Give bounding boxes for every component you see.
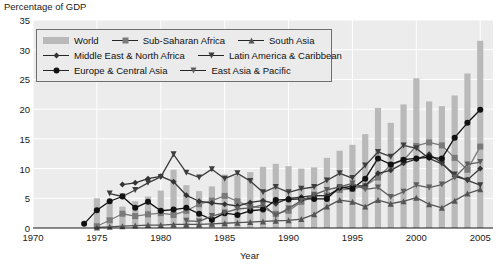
data-point-marker [145, 199, 151, 205]
data-point-marker [477, 144, 483, 150]
data-point-marker [119, 211, 125, 217]
legend-label: South Asia [269, 35, 314, 46]
data-point-marker [132, 205, 138, 211]
legend-item-latin-america-caribbean: Latin America & Caribbean [198, 50, 342, 61]
data-point-marker [54, 68, 60, 74]
bar-world [375, 108, 381, 228]
data-point-marker [122, 38, 128, 44]
data-point-marker [452, 155, 458, 161]
data-point-marker [171, 212, 177, 218]
data-point-marker [273, 197, 279, 203]
x-tick-label: 1975 [86, 232, 107, 243]
y-tick-label: 5 [6, 193, 30, 204]
legend-marker-triangle-up-icon [247, 36, 256, 45]
y-tick-label: 10 [6, 163, 30, 174]
chart-legend: WorldSub-Saharan AfricaSouth AsiaMiddle … [36, 29, 332, 82]
data-point-marker [107, 198, 113, 204]
legend-line-sample [43, 66, 69, 75]
legend-row: Middle East & North AfricaLatin America … [43, 48, 325, 63]
data-point-marker [388, 161, 394, 167]
data-point-marker [222, 193, 228, 199]
legend-label: Europe & Central Asia [74, 65, 167, 76]
y-axis-ticks: 05101520253035 [0, 0, 30, 268]
data-point-marker [107, 217, 113, 223]
data-point-marker [171, 207, 177, 213]
legend-marker-diamond-icon [52, 51, 61, 60]
data-point-marker [464, 120, 470, 126]
bar-world [413, 78, 419, 228]
data-point-marker [158, 208, 164, 214]
legend-item-south-asia: South Asia [238, 35, 314, 46]
legend-row: WorldSub-Saharan AfricaSouth Asia [43, 33, 325, 48]
x-tick-label: 1995 [342, 232, 363, 243]
legend-line-sample [180, 66, 206, 75]
legend-label: Sub-Saharan Africa [143, 35, 225, 46]
legend-line-sample [238, 36, 264, 45]
legend-row: Europe & Central AsiaEast Asia & Pacific [43, 63, 325, 78]
data-point-marker [439, 155, 445, 161]
bar-world [477, 41, 483, 228]
legend-item-east-asia-pacific: East Asia & Pacific [180, 65, 290, 76]
data-point-marker [324, 196, 330, 202]
x-tick-label: 1980 [150, 232, 171, 243]
data-point-marker [286, 196, 292, 202]
legend-line-sample [198, 51, 224, 60]
data-point-marker [119, 194, 125, 200]
bar-world [452, 95, 458, 228]
bar-world [170, 170, 176, 228]
data-point-marker [234, 212, 240, 218]
x-tick-label: 2005 [470, 232, 491, 243]
data-point-marker [439, 142, 445, 148]
legend-label: Latin America & Caribbean [229, 50, 342, 61]
bar-world [388, 123, 394, 228]
bar-world [464, 73, 470, 228]
data-point-marker [477, 107, 483, 113]
data-point-marker [208, 53, 214, 59]
legend-swatch-bar [43, 37, 69, 44]
data-point-marker [196, 211, 202, 217]
data-point-marker [452, 135, 458, 141]
x-tick-label: 1970 [22, 232, 43, 243]
legend-label: World [74, 35, 99, 46]
y-tick-label: 15 [6, 133, 30, 144]
data-point-marker [183, 205, 189, 211]
y-tick-label: 20 [6, 104, 30, 115]
data-point-marker [81, 221, 87, 227]
chart-root: Percentage of GDP 05101520253035 1970197… [0, 0, 499, 268]
x-axis-title: Year [0, 250, 499, 261]
legend-label: Middle East & North Africa [74, 50, 185, 61]
data-point-marker [426, 154, 432, 160]
legend-marker-square-icon [121, 36, 130, 45]
data-point-marker [54, 53, 60, 59]
x-tick-label: 1985 [214, 232, 235, 243]
data-point-marker [249, 38, 255, 44]
data-point-marker [94, 207, 100, 213]
legend-item-middle-east-north-africa: Middle East & North Africa [43, 50, 185, 61]
bar-world [426, 101, 432, 228]
data-point-marker [464, 167, 470, 173]
y-tick-label: 25 [6, 74, 30, 85]
legend-marker-triangle-down-icon [207, 51, 216, 60]
legend-marker-circle-icon [52, 66, 61, 75]
legend-item-sub-saharan-africa: Sub-Saharan Africa [112, 35, 225, 46]
data-point-marker [349, 186, 355, 192]
data-point-marker [413, 155, 419, 161]
data-point-marker [145, 211, 151, 217]
data-point-marker [132, 213, 138, 219]
data-point-marker [401, 157, 407, 163]
x-tick-label: 2000 [406, 232, 427, 243]
legend-item-europe-central-asia: Europe & Central Asia [43, 65, 167, 76]
legend-line-sample [43, 51, 69, 60]
y-tick-label: 35 [6, 15, 30, 26]
data-point-marker [362, 176, 368, 182]
data-point-marker [191, 68, 197, 74]
y-tick-label: 30 [6, 44, 30, 55]
data-point-marker [426, 139, 432, 145]
legend-line-sample [112, 36, 138, 45]
legend-label: East Asia & Pacific [211, 65, 290, 76]
legend-item-world: World [43, 35, 99, 46]
legend-marker-triangle-down-open-icon [189, 66, 198, 75]
x-tick-label: 1990 [278, 232, 299, 243]
data-point-marker [375, 155, 381, 161]
